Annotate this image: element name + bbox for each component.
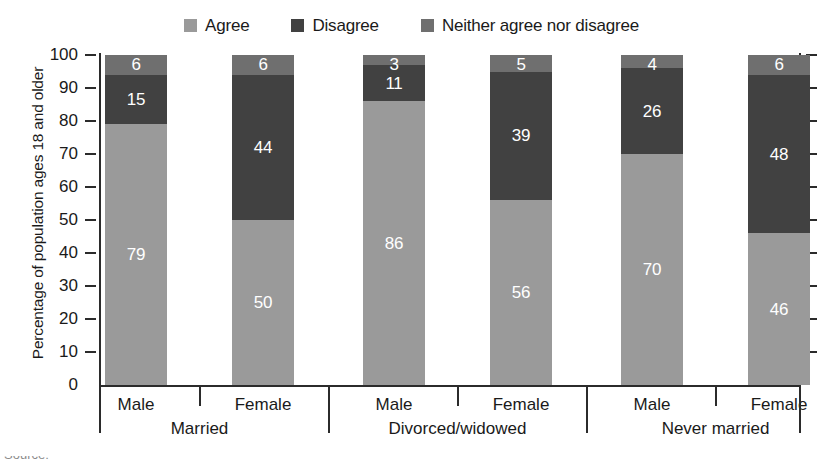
y-axis-tick: 80: [0, 112, 100, 130]
bar-segment-agree[interactable]: 70: [621, 154, 683, 385]
bar-stack[interactable]: 50446: [232, 55, 294, 385]
bar-segment-neither[interactable]: 4: [621, 55, 683, 68]
chart-legend: Agree Disagree Neither agree nor disagre…: [0, 13, 823, 37]
y-axis-tick-mark: [85, 186, 96, 188]
x-axis-group-separator: [586, 387, 588, 433]
bar-segment-agree[interactable]: 79: [105, 124, 167, 385]
bar-value-label: 48: [770, 146, 788, 163]
y-axis-tick: 50: [0, 211, 100, 229]
y-axis-tick-label: 20: [59, 310, 78, 328]
y-axis-tick-label: 50: [59, 211, 78, 229]
x-axis-group-separator: [799, 387, 801, 433]
y-axis-tick-mark: [85, 351, 96, 353]
legend-item-neither: Neither agree nor disagree: [421, 17, 639, 34]
y-axis-tick: 30: [0, 277, 100, 295]
x-axis-sub-label: Female: [471, 396, 571, 414]
legend-swatch-agree-icon: [184, 19, 197, 32]
y-axis-tick-label: 90: [59, 79, 78, 97]
x-axis-sub-label: Male: [344, 396, 444, 414]
bar-value-label: 46: [770, 301, 788, 318]
bar-value-label: 6: [774, 56, 783, 73]
y-axis-tick-label: 30: [59, 277, 78, 295]
y-axis-tick-label: 70: [59, 145, 78, 163]
bar-value-label: 4: [647, 56, 656, 73]
legend-label-neither: Neither agree nor disagree: [442, 17, 639, 34]
bar-stack[interactable]: 46486: [748, 55, 810, 385]
y-axis-tick: 90: [0, 79, 100, 97]
y-axis-tick: 40: [0, 244, 100, 262]
bar-value-label: 15: [127, 91, 145, 108]
y-axis-tick: 20: [0, 310, 100, 328]
y-axis-tick-label: 10: [59, 343, 78, 361]
y-axis-tick-label: 100: [50, 46, 78, 64]
bar-segment-disagree[interactable]: 44: [232, 75, 294, 220]
source-note: Source:: [4, 456, 49, 462]
legend-swatch-disagree-icon: [291, 19, 304, 32]
x-axis-sub-label: Male: [602, 396, 702, 414]
bar-segment-agree[interactable]: 50: [232, 220, 294, 385]
bar-value-label: 3: [389, 56, 398, 73]
y-axis-tick-mark: [85, 87, 96, 89]
y-axis-tick-mark: [85, 219, 96, 221]
y-axis-tick: 70: [0, 145, 100, 163]
plot-area: 791565044686113563957026446486: [100, 55, 800, 385]
y-axis-tick-label: 80: [59, 112, 78, 130]
legend-item-agree: Agree: [184, 17, 249, 34]
legend-label-agree: Agree: [205, 17, 249, 34]
bar-stack[interactable]: 70264: [621, 55, 683, 385]
bar-segment-neither[interactable]: 6: [105, 55, 167, 75]
bar-segment-disagree[interactable]: 15: [105, 75, 167, 125]
bar-stack[interactable]: 79156: [105, 55, 167, 385]
bar-segment-neither[interactable]: 3: [363, 55, 425, 65]
x-axis-group-separator: [328, 387, 330, 433]
x-axis: MaleFemaleMaleFemaleMaleFemaleMarriedDiv…: [0, 387, 823, 447]
bar-value-label: 44: [254, 139, 272, 156]
legend-item-disagree: Disagree: [291, 17, 378, 34]
bar-value-label: 6: [258, 56, 267, 73]
bar-stack[interactable]: 86113: [363, 55, 425, 385]
bar-value-label: 11: [385, 75, 402, 92]
y-axis-tick-mark: [85, 54, 96, 56]
bar-segment-neither[interactable]: 5: [490, 55, 552, 72]
y-axis-tick: 60: [0, 178, 100, 196]
bar-value-label: 70: [643, 261, 661, 278]
bar-stack[interactable]: 56395: [490, 55, 552, 385]
x-axis-group-separator: [99, 387, 101, 433]
bar-value-label: 26: [643, 103, 661, 120]
y-axis-tick-mark: [85, 285, 96, 287]
bar-segment-disagree[interactable]: 48: [748, 75, 810, 233]
bar-segment-neither[interactable]: 6: [232, 55, 294, 75]
bar-value-label: 56: [512, 284, 530, 301]
y-axis-tick-label: 60: [59, 178, 78, 196]
y-axis-tick-mark: [85, 318, 96, 320]
x-axis-group-label: Divorced/widowed: [328, 420, 588, 438]
y-axis-tick-label: 40: [59, 244, 78, 262]
x-axis-minor-separator: [199, 387, 201, 406]
bar-segment-agree[interactable]: 56: [490, 200, 552, 385]
cropped-title-strip: [0, 0, 823, 9]
bar-value-label: 79: [127, 246, 145, 263]
bar-segment-disagree[interactable]: 39: [490, 72, 552, 201]
y-axis-tick-mark: [85, 252, 96, 254]
bar-segment-neither[interactable]: 6: [748, 55, 810, 75]
y-axis-tick: 100: [0, 46, 100, 64]
x-axis-minor-separator: [715, 387, 717, 406]
stacked-bar-chart: Agree Disagree Neither agree nor disagre…: [0, 0, 823, 464]
bar-value-label: 5: [516, 56, 525, 73]
bar-value-label: 39: [512, 127, 530, 144]
bar-value-label: 50: [254, 294, 272, 311]
bar-segment-agree[interactable]: 86: [363, 101, 425, 385]
bar-value-label: 6: [131, 56, 140, 73]
x-axis-sub-label: Female: [729, 396, 823, 414]
bar-value-label: 86: [385, 235, 403, 252]
x-axis-group-label: Never married: [586, 420, 823, 438]
legend-swatch-neither-icon: [421, 19, 434, 32]
bar-segment-agree[interactable]: 46: [748, 233, 810, 385]
legend-label-disagree: Disagree: [312, 17, 378, 34]
bar-segment-disagree[interactable]: 26: [621, 68, 683, 154]
x-axis-group-label: Married: [70, 420, 330, 438]
y-axis-tick-mark: [85, 120, 96, 122]
y-axis-tick: 10: [0, 343, 100, 361]
x-axis-sub-label: Male: [86, 396, 186, 414]
cropped-source-strip: Source:: [0, 456, 823, 464]
